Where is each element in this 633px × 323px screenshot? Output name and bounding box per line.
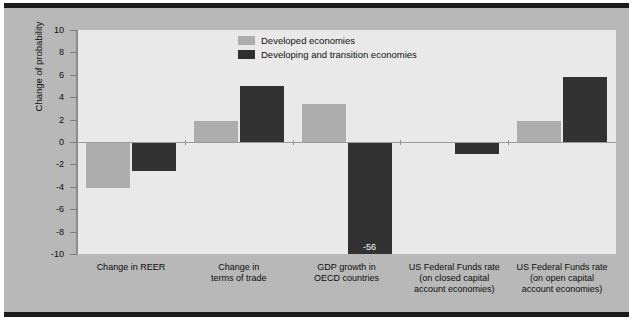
chart-legend: Developed economies Developing and trans…	[238, 34, 417, 62]
bar-developed-2	[302, 104, 346, 142]
bar-developing-0	[132, 142, 176, 171]
legend-item-developed: Developed economies	[238, 34, 417, 46]
y-tick-label: -8	[34, 228, 64, 237]
y-tick-label: -10	[34, 250, 64, 259]
bar-developed-0	[86, 142, 130, 188]
y-tick-label: -6	[34, 205, 64, 214]
y-tick-mark	[70, 187, 77, 188]
bar-developed-1	[194, 121, 238, 142]
y-tick-mark	[70, 232, 77, 233]
x-axis-label-1: Change interms of trade	[178, 262, 300, 284]
x-axis-label-line: US Federal Funds rate	[501, 262, 623, 273]
y-tick-mark	[70, 254, 77, 255]
legend-item-developing: Developing and transition economies	[238, 48, 417, 60]
x-axis-label-line: US Federal Funds rate	[393, 262, 515, 273]
y-axis-title: Change of probability	[33, 0, 44, 147]
x-axis-label-line: OECD countries	[286, 273, 408, 284]
x-axis-label-2: GDP growth inOECD countries	[286, 262, 408, 284]
x-axis-label-line: Change in REER	[70, 262, 192, 273]
x-axis-label-line: GDP growth in	[286, 262, 408, 273]
bar-developed-4	[517, 121, 561, 142]
x-axis-label-line: account economies)	[501, 284, 623, 295]
zero-baseline	[77, 142, 616, 143]
x-axis-label-4: US Federal Funds rate(on open capitalacc…	[501, 262, 623, 295]
bar-developing-3	[455, 142, 499, 154]
y-tick-mark	[70, 164, 77, 165]
legend-swatch-developed-icon	[238, 36, 255, 45]
y-tick-mark	[70, 52, 77, 53]
chart-figure: 1086420-2-4-6-8-10 Change of probability…	[4, 3, 629, 317]
bar-developing-4	[563, 77, 607, 142]
y-tick-mark	[70, 97, 77, 98]
y-tick-mark	[70, 30, 77, 31]
y-tick-mark	[70, 75, 77, 76]
x-axis-label-line: account economies)	[393, 284, 515, 295]
y-tick-label: -4	[34, 183, 64, 192]
legend-label-developed: Developed economies	[261, 35, 355, 46]
screenshot-root: 1086420-2-4-6-8-10 Change of probability…	[0, 0, 633, 323]
x-axis-label-0: Change in REER	[70, 262, 192, 273]
y-tick-mark	[70, 209, 77, 210]
y-tick-mark	[70, 142, 77, 143]
y-tick-mark	[70, 120, 77, 121]
y-tick-label: -2	[34, 160, 64, 169]
bar-developing-1	[240, 86, 284, 142]
x-axis-label-line: (on open capital	[501, 273, 623, 284]
legend-label-developing: Developing and transition economies	[261, 49, 417, 60]
x-axis-label-line: Change in	[178, 262, 300, 273]
bar-value-label: -56	[348, 242, 392, 252]
x-axis-label-line: (on closed capital	[393, 273, 515, 284]
x-axis-label-3: US Federal Funds rate(on closed capitala…	[393, 262, 515, 295]
legend-swatch-developing-icon	[238, 50, 255, 59]
bar-developing-2: -56	[348, 142, 392, 254]
x-axis-label-line: terms of trade	[178, 273, 300, 284]
